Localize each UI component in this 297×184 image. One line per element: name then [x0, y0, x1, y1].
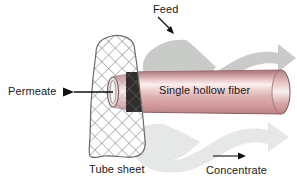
feed-arrow-icon — [158, 17, 174, 34]
permeate-label: Permeate — [8, 85, 57, 97]
tube-sheet-label: Tube sheet — [89, 163, 145, 175]
diagram-canvas: Feed Permeate Tube sheet Concentrate Sin… — [0, 0, 297, 184]
concentrate-label: Concentrate — [206, 164, 267, 176]
single-hollow-fiber-label: Single hollow fiber — [159, 84, 250, 96]
feed-label: Feed — [153, 3, 178, 15]
concentrate-arrow-icon — [213, 153, 246, 160]
permeate-arrow-icon — [63, 88, 113, 97]
